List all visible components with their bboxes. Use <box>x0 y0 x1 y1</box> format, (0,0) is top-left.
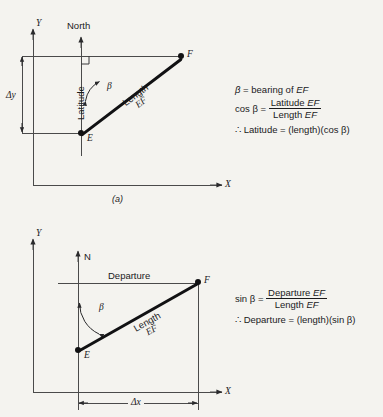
lower-eq-den-ef: EF <box>306 299 318 310</box>
lower-eq-sin-equals: = <box>258 293 264 304</box>
lower-equation-conclusion: ∴ Departure = (length)(sin β) <box>235 314 356 325</box>
lower-eq-fraction: Departure EF Length EF <box>266 287 327 310</box>
lower-axis-x-label: X <box>225 387 231 397</box>
figure-page: Y X North Latitude β E F Δy Length EF (a… <box>0 0 383 417</box>
lower-eq-numerator: Departure EF <box>266 287 327 298</box>
lower-point-e-dot <box>75 347 81 353</box>
lower-north-label: N <box>84 252 91 262</box>
lower-axis-y-label: Y <box>36 229 41 239</box>
lower-diagram-vectors <box>0 0 383 417</box>
lower-eq-therefore-symbol: ∴ <box>235 314 241 325</box>
lower-eq-num-ef: EF <box>313 287 325 298</box>
lower-delta-x-label: Δx <box>128 398 144 408</box>
lower-point-f-dot <box>195 279 201 285</box>
lower-eq-sin-beta: sin β <box>235 293 255 304</box>
lower-departure-label: Departure <box>108 271 150 281</box>
lower-eq-den-text: Length <box>275 299 304 310</box>
lower-beta-arc <box>79 303 99 334</box>
lower-beta-label: β <box>99 303 104 313</box>
lower-equation-sin: sin β = Departure EF Length EF <box>235 288 327 311</box>
lower-point-f-label: F <box>204 276 210 286</box>
lower-point-e-label: E <box>84 351 90 361</box>
lower-eq-num-text: Departure <box>268 287 310 298</box>
lower-eq-conclusion-text: Departure = (length)(sin β) <box>244 314 356 325</box>
lower-eq-denominator: Length EF <box>266 298 327 310</box>
